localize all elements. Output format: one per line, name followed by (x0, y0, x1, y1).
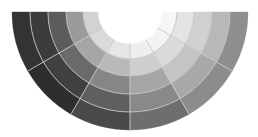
grayscale-half-wheel (0, 0, 258, 137)
wheel-svg (0, 0, 258, 137)
